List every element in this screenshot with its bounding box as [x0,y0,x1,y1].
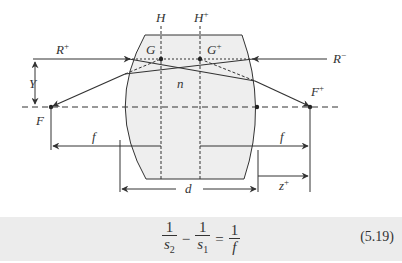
label-g: G [146,42,156,57]
ray-r-minus-outgoing [53,74,125,106]
label-n: n [177,76,184,91]
point-lens-vertex-right [255,105,259,109]
label-f-plus-point: F+ [310,83,324,99]
fraction-1-over-s1: 1 s1 [195,220,210,258]
label-f-right: f [280,129,286,144]
label-h: H [155,10,166,25]
point-g [159,57,163,61]
label-f-point: F [35,113,45,128]
equation-number: (5.19) [360,229,394,245]
point-g-plus [198,57,202,61]
label-r-minus: R− [332,50,346,66]
label-f-left: f [92,129,98,144]
fraction-1-over-f: 1 f [229,223,241,255]
label-r-plus: R+ [55,41,69,57]
label-y: Y [29,76,38,91]
label-h-plus: H+ [193,9,208,25]
thick-lens-diagram: H H+ G G+ R+ R− n Y F F+ f f d z+ [0,0,402,215]
fraction-1-over-s2: 1 s2 [162,220,177,258]
minus-operator: − [182,231,190,248]
label-z-plus: z+ [278,177,289,193]
label-d: d [185,181,192,196]
ray-r-plus-outgoing [255,81,309,106]
lens-equation: 1 s2 − 1 s1 = 1 f [160,220,242,258]
equals-operator: = [215,231,223,248]
